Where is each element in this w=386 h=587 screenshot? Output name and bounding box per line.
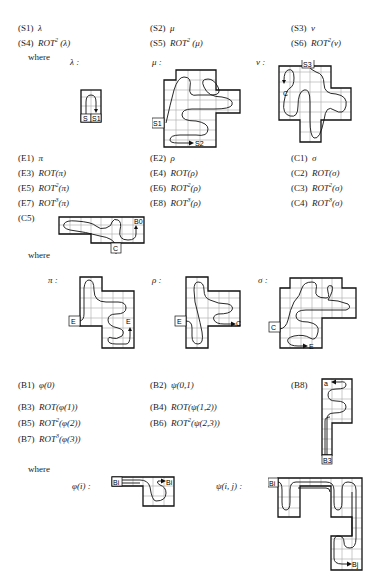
b8-path-figure: B3 a <box>320 377 356 467</box>
item-c4: (C4) ROT3(σ) <box>291 198 342 208</box>
item-e8: (E8) ROT3(ρ) <box>150 198 201 208</box>
rot-op: ROT <box>171 418 188 428</box>
rot-arg: (λ) <box>58 38 70 48</box>
item-expr: π <box>39 153 44 163</box>
item-b8-label: (B8) <box>291 380 308 390</box>
item-e4: (E4) ROT(ρ) <box>150 168 198 178</box>
item-label: (B5) <box>18 418 35 428</box>
rot-op: ROT <box>171 168 188 178</box>
item-label: (S6) <box>291 38 307 48</box>
nu-path-figure: S3 C <box>276 60 358 152</box>
item-label: (S3) <box>291 23 307 33</box>
item-c2: (C2) ROT(σ) <box>291 168 339 178</box>
item-s1: (S1) λ <box>18 23 42 33</box>
item-label: (S5) <box>150 38 166 48</box>
rot-op: ROT <box>170 38 187 48</box>
item-e7: (E7) ROT3(π) <box>18 198 69 208</box>
label-s1: S1 <box>153 120 162 127</box>
item-expr: ψ(0,1) <box>171 380 194 390</box>
rot-op: ROT <box>311 38 328 48</box>
item-e5: (E5) ROT2(π) <box>18 183 69 193</box>
item-expr: σ <box>312 153 316 163</box>
rot-op: ROT <box>312 198 329 208</box>
item-s6: (S6) ROT2(ν) <box>291 38 341 48</box>
rot-op: ROT <box>39 183 56 193</box>
pi-path-figure: E E <box>68 274 140 356</box>
item-label: (E6) <box>150 183 166 193</box>
label-e: E <box>309 343 314 350</box>
item-b3: (B3) ROT(φ(1)) <box>18 402 77 412</box>
figure-name-lambda: λ : <box>70 57 79 67</box>
rot-arg: (σ) <box>332 183 342 193</box>
label-bi: Bi <box>166 479 173 486</box>
rot-op: ROT <box>39 198 56 208</box>
item-c3: (C3) ROT2(σ) <box>291 183 342 193</box>
item-label: (E3) <box>18 168 34 178</box>
where-label: where <box>28 464 50 474</box>
rot-op: ROT <box>312 168 329 178</box>
mu-path-figure: S1 S2 <box>152 65 248 153</box>
rot-arg: (σ) <box>332 198 342 208</box>
item-c1: (C1) σ <box>291 153 316 163</box>
rot-arg: (ψ(1,2)) <box>188 402 217 412</box>
rot-arg: (ρ) <box>191 183 201 193</box>
item-b2: (B2) ψ(0,1) <box>150 380 194 390</box>
item-label: (S4) <box>18 38 34 48</box>
item-label: (B1) <box>18 380 35 390</box>
item-label: (B6) <box>150 418 167 428</box>
rot-op: ROT <box>38 38 55 48</box>
item-c5-label: (C5) <box>18 213 35 223</box>
item-b6: (B6) ROT2(ψ(2,3)) <box>150 418 220 428</box>
label-c: C <box>236 320 241 327</box>
figure-name-pi: π : <box>48 275 58 285</box>
item-expr: λ <box>38 23 42 33</box>
psi-path-figure: Bi Bj <box>268 476 378 576</box>
item-label: (C1) <box>291 153 308 163</box>
item-s4: (S4) ROT2 (λ) <box>18 38 70 48</box>
rot-arg: (ψ(2,3)) <box>191 418 220 428</box>
item-b4: (B4) ROT(ψ(1,2)) <box>150 402 217 412</box>
item-expr: ν <box>311 23 315 33</box>
item-e3: (E3) ROT(π) <box>18 168 66 178</box>
item-expr: μ <box>170 23 175 33</box>
where-label: where <box>28 52 50 62</box>
rot-arg: (φ(3)) <box>59 434 80 444</box>
figure-name-rho: ρ : <box>152 275 162 285</box>
item-e6: (E6) ROT2(ρ) <box>150 183 201 193</box>
item-label: (C2) <box>291 168 308 178</box>
rot-arg: (π) <box>56 168 67 178</box>
rot-op: ROT <box>171 183 188 193</box>
rot-arg: (φ(2)) <box>59 418 80 428</box>
item-label: (E1) <box>18 153 34 163</box>
figure-name-sigma: σ : <box>258 275 268 285</box>
where-label: where <box>28 250 50 260</box>
label-bi: Bi <box>113 479 120 486</box>
rot-op: ROT <box>39 434 56 444</box>
item-b5: (B5) ROT2(φ(2)) <box>18 418 80 428</box>
item-expr: ρ <box>171 153 175 163</box>
label-s1: S1 <box>92 115 101 122</box>
label-e: E <box>177 318 182 325</box>
item-label: (B3) <box>18 402 35 412</box>
item-label: (E2) <box>150 153 166 163</box>
item-s5: (S5) ROT2 (μ) <box>150 38 203 48</box>
item-label: (E5) <box>18 183 34 193</box>
item-label: (B2) <box>150 380 167 390</box>
figure-name-nu: ν : <box>256 57 265 67</box>
figure-name-phi: φ(i) : <box>72 481 91 491</box>
label-e: E <box>71 318 76 325</box>
label-s: S <box>83 115 88 122</box>
label-b0: B0 <box>134 218 143 225</box>
rot-arg: (ρ) <box>191 198 201 208</box>
rot-op: ROT <box>171 402 188 412</box>
item-label: (C3) <box>291 183 308 193</box>
rot-arg: (ρ) <box>188 168 198 178</box>
item-expr: φ(0) <box>39 380 54 390</box>
c5-path-figure: C B0 <box>56 214 150 260</box>
rot-op: ROT <box>39 168 56 178</box>
item-label: (B4) <box>150 402 167 412</box>
rot-arg: (ν) <box>331 38 341 48</box>
rot-op: ROT <box>39 418 56 428</box>
rot-arg: (φ(1)) <box>56 402 77 412</box>
label-c: C <box>271 324 276 331</box>
